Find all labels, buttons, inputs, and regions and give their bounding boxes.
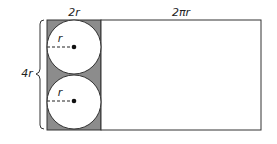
diagram-canvas: 2r 2πr 4r r r	[0, 0, 277, 144]
right-width-label: 2πr	[172, 6, 192, 19]
right-rectangle	[101, 20, 261, 130]
shaded-width-label: 2r	[68, 6, 81, 19]
top-center-dot	[72, 45, 77, 50]
height-label: 4r	[21, 67, 34, 80]
height-brace	[36, 20, 44, 129]
bottom-center-dot	[72, 99, 77, 104]
